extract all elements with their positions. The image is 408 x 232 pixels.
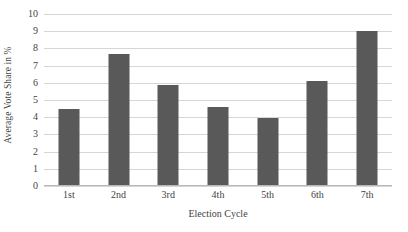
x-tick-label: 3rd xyxy=(162,190,175,200)
x-tick-label: 6th xyxy=(311,190,324,200)
bar xyxy=(58,109,79,186)
x-tick-label: 7th xyxy=(361,190,374,200)
bar-slot xyxy=(193,14,243,186)
x-axis-tick-labels: 1st2nd3rd4th5th6th7th xyxy=(44,190,392,206)
y-tick-label: 5 xyxy=(33,95,38,105)
bar-slot xyxy=(293,14,343,186)
x-tick-label: 1st xyxy=(63,190,75,200)
y-tick-label: 9 xyxy=(33,26,38,36)
bar-slot xyxy=(44,14,94,186)
x-axis-line xyxy=(44,185,392,186)
y-axis-tick-labels: 012345678910 xyxy=(16,8,41,192)
bar xyxy=(207,107,228,186)
plot-area xyxy=(44,14,392,186)
y-tick-label: 3 xyxy=(33,129,38,139)
y-tick-label: 4 xyxy=(33,112,38,122)
y-tick-label: 2 xyxy=(33,147,38,157)
x-tick-label: 5th xyxy=(261,190,274,200)
x-tick-label: 2nd xyxy=(111,190,126,200)
bar xyxy=(357,31,378,186)
gridline xyxy=(44,186,392,187)
bar xyxy=(108,54,129,186)
y-tick-label: 7 xyxy=(33,61,38,71)
x-axis-title: Election Cycle xyxy=(44,208,392,219)
bar-slot xyxy=(94,14,144,186)
bar-slot xyxy=(342,14,392,186)
y-tick-label: 6 xyxy=(33,78,38,88)
bar xyxy=(257,118,278,186)
x-tick-label: 4th xyxy=(212,190,225,200)
y-tick-label: 0 xyxy=(33,181,38,191)
bar-slot xyxy=(143,14,193,186)
y-tick-label: 10 xyxy=(28,9,38,19)
y-axis-title: Average Vote Share in % xyxy=(0,0,16,190)
y-tick-label: 8 xyxy=(33,43,38,53)
bar-chart: Average Vote Share in % 012345678910 1st… xyxy=(0,0,408,232)
bar xyxy=(158,85,179,186)
y-tick-label: 1 xyxy=(33,164,38,174)
y-axis-title-text: Average Vote Share in % xyxy=(3,46,13,143)
bars-layer xyxy=(44,14,392,186)
bar-slot xyxy=(243,14,293,186)
bar xyxy=(307,81,328,186)
